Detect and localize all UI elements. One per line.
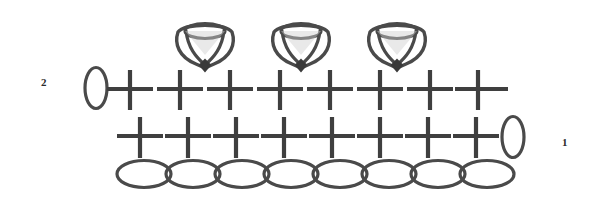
single-crochet-stitch xyxy=(107,70,153,110)
single-crochet-stitch xyxy=(261,117,307,158)
chain-stitch-oval xyxy=(362,161,416,188)
row-2-stitches xyxy=(85,68,508,111)
turning-chain-oval-row-2 xyxy=(85,68,107,109)
chain-stitch-oval xyxy=(264,161,318,188)
single-crochet-stitch xyxy=(357,117,403,158)
row-1-stitches xyxy=(117,117,524,159)
crochet-chart-canvas: 2 1 xyxy=(0,0,600,201)
crochet-chart-svg xyxy=(0,0,600,201)
chain-stitch-oval xyxy=(215,161,269,188)
single-crochet-stitch xyxy=(453,117,499,158)
row-label-1: 1 xyxy=(562,137,568,148)
puff-stitch-row xyxy=(177,24,426,72)
single-crochet-stitch xyxy=(309,117,355,158)
foundation-chain-row xyxy=(117,161,514,188)
single-crochet-stitch xyxy=(455,70,508,110)
chain-stitch-oval xyxy=(117,161,171,188)
single-crochet-stitch xyxy=(207,70,253,110)
chain-stitch-oval xyxy=(460,161,514,188)
single-crochet-stitch xyxy=(405,117,451,158)
puff-stitch xyxy=(273,24,330,72)
puff-stitch xyxy=(177,24,234,72)
single-crochet-stitch xyxy=(117,117,163,158)
single-crochet-stitch xyxy=(157,70,203,110)
chain-stitch-oval xyxy=(313,161,367,188)
single-crochet-stitch xyxy=(407,70,453,110)
chain-stitch-oval xyxy=(166,161,220,188)
puff-stitch xyxy=(369,24,426,72)
single-crochet-stitch xyxy=(307,70,353,110)
single-crochet-stitch xyxy=(357,70,403,110)
single-crochet-stitch xyxy=(165,117,211,158)
single-crochet-stitch xyxy=(213,117,259,158)
row-label-2: 2 xyxy=(41,77,47,88)
chain-stitch-oval xyxy=(411,161,465,188)
single-crochet-stitch xyxy=(257,70,303,110)
turning-chain-oval-row-1 xyxy=(502,117,524,158)
